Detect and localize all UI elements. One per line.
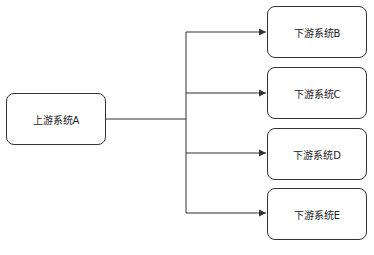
node-label: 下游系统D [293, 147, 341, 162]
node-downstream-b: 下游系统B [267, 6, 367, 58]
node-downstream-d: 下游系统D [267, 128, 367, 180]
node-label: 下游系统C [294, 86, 341, 101]
node-label: 下游系统B [294, 25, 341, 40]
node-downstream-e: 下游系统E [267, 188, 367, 240]
node-downstream-c: 下游系统C [267, 67, 367, 119]
node-label: 下游系统E [294, 207, 340, 222]
node-label: 上游系统A [33, 112, 80, 127]
node-upstream-a: 上游系统A [6, 93, 106, 145]
